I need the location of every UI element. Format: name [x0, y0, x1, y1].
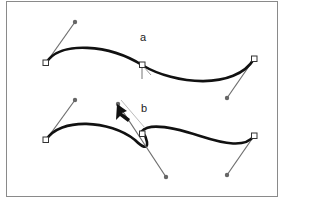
bezier-path [46, 124, 254, 147]
direction-line [227, 136, 254, 175]
label-a: a [140, 31, 146, 43]
anchor-point[interactable] [252, 133, 258, 139]
direction-point[interactable] [164, 175, 168, 179]
anchor-point[interactable] [43, 137, 49, 143]
panel-b [43, 98, 257, 179]
anchor-point[interactable] [252, 56, 258, 62]
arrow-cursor-icon [116, 104, 130, 122]
direction-point[interactable] [225, 96, 229, 100]
direction-point[interactable] [225, 173, 229, 177]
anchor-point[interactable] [140, 131, 146, 137]
direction-point[interactable] [73, 98, 77, 102]
direction-line [118, 104, 166, 177]
anchor-point[interactable] [43, 60, 49, 66]
direction-point[interactable] [73, 20, 77, 24]
panel-a [43, 20, 257, 100]
bezier-path [46, 48, 254, 81]
label-b: b [141, 102, 147, 114]
anchor-point[interactable] [140, 62, 146, 68]
